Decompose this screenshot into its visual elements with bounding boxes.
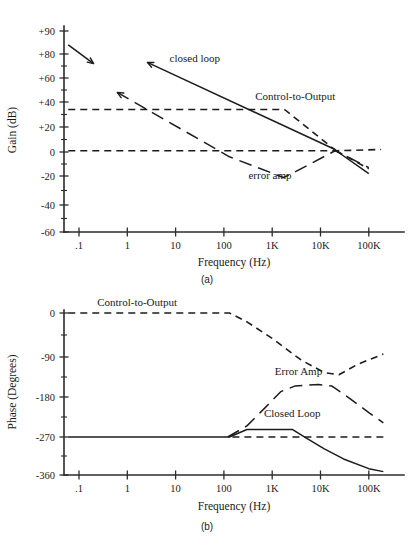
- y-tick-label: -60: [41, 227, 55, 238]
- gain-curves: [68, 45, 381, 178]
- phase-curves: [68, 313, 383, 472]
- y-tick-label: -180: [36, 392, 55, 403]
- x-tick-label: 1K: [266, 483, 279, 494]
- gain-plot-svg: +90+80+60+40+200-20-40-60.11101001K10K10…: [0, 0, 414, 285]
- gain-bode-plot: +90+80+60+40+200-20-40-60.11101001K10K10…: [0, 0, 414, 285]
- y-tick-label: 0: [50, 308, 55, 319]
- y-tick-label: -360: [36, 470, 55, 481]
- series-closed-loop: [68, 45, 93, 64]
- series-error-amp: [117, 92, 369, 177]
- x-tick-label: 100: [216, 483, 232, 494]
- x-tick-label: 100K: [357, 483, 381, 494]
- y-tick-label: +90: [39, 26, 55, 37]
- annotation-label: Closed Loop: [264, 407, 321, 419]
- phase-axes: 0-90-180-270-360.11101001K10K100KFrequen…: [6, 308, 404, 513]
- annotation-label: closed loop: [170, 52, 221, 64]
- y-tick-label: +80: [39, 49, 55, 60]
- phase-bode-plot: 0-90-180-270-360.11101001K10K100KFrequen…: [0, 280, 414, 550]
- y-tick-label: -270: [36, 432, 55, 443]
- y-tick-label: -20: [41, 171, 55, 182]
- annotation-label: Control-to-Output: [255, 90, 335, 102]
- y-tick-label: +40: [39, 97, 55, 108]
- y-axis-title: Phase (Degrees): [6, 354, 19, 429]
- series-control-to-output: [68, 313, 383, 375]
- x-tick-label: 1K: [266, 240, 279, 251]
- annotation-label: error amp: [248, 169, 292, 181]
- series-control-to-output: [336, 151, 369, 169]
- annotation-label: Error Amp: [275, 365, 323, 377]
- x-tick-label: .1: [75, 240, 83, 251]
- y-axis-title: Gain (dB): [6, 107, 19, 153]
- x-tick-label: 10: [170, 240, 181, 251]
- y-tick-label: 0: [50, 147, 55, 158]
- phase-labels: Control-to-OutputError AmpClosed Loop: [97, 296, 323, 419]
- x-tick-label: 10K: [311, 483, 330, 494]
- x-tick-label: 10: [170, 483, 181, 494]
- y-tick-label: +20: [39, 122, 55, 133]
- series-closed-loop: [147, 62, 368, 173]
- y-tick-label: +60: [39, 73, 55, 84]
- y-tick-label: -40: [41, 200, 55, 211]
- series-closed-loop: [68, 429, 383, 471]
- x-tick-label: 100K: [357, 240, 381, 251]
- figure-caption-b: (b): [201, 521, 213, 532]
- x-tick-label: 1: [125, 240, 130, 251]
- x-axis-title: Frequency (Hz): [198, 500, 271, 513]
- x-tick-label: 1: [125, 483, 130, 494]
- x-tick-label: 100: [216, 240, 232, 251]
- y-tick-label: -90: [41, 352, 55, 363]
- annotation-label: Control-to-Output: [97, 296, 177, 308]
- phase-plot-svg: 0-90-180-270-360.11101001K10K100KFrequen…: [0, 280, 414, 550]
- gain-labels: closed loopControl-to-Outputerror amp: [170, 52, 336, 181]
- series-control-to-output: [68, 110, 336, 151]
- x-tick-label: .1: [75, 483, 83, 494]
- x-axis-title: Frequency (Hz): [198, 256, 271, 269]
- x-tick-label: 10K: [311, 240, 330, 251]
